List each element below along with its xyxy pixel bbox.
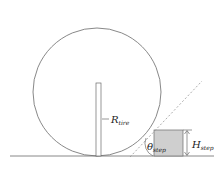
radius-label: Rtire xyxy=(110,114,130,126)
tire-step-diagram: Rtire θstep Hstep xyxy=(0,0,224,172)
radius-bar xyxy=(96,83,101,156)
height-label: Hstep xyxy=(191,139,214,152)
